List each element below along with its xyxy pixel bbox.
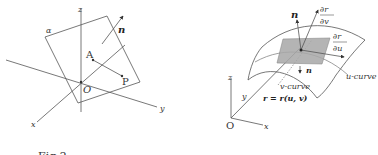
x-axis-label: x	[31, 120, 36, 129]
position-equation: r = r(u, v)	[263, 93, 308, 103]
origin-right-label: O	[226, 120, 234, 131]
partial-u-numerator: ∂r	[333, 32, 342, 41]
z-axis-right-label: z	[227, 73, 233, 82]
normal-top-label: n	[291, 9, 298, 20]
x-axis-right	[231, 118, 263, 125]
normal-n-label: n	[118, 24, 125, 35]
surface-diagram: z y x O n n ∂r ∂v ∂r ∂u u-curve v-curve …	[226, 5, 377, 131]
partial-r-u-fraction: ∂r ∂u	[333, 32, 347, 53]
figure-canvas: z y x α n A P O Fig.2	[0, 0, 378, 155]
figure-caption: Fig.2	[38, 150, 67, 155]
normal-bottom-label: n	[306, 65, 312, 75]
point-a-label: A	[85, 49, 94, 60]
u-curve-label: u-curve	[346, 72, 377, 81]
x-axis-right-label: x	[264, 122, 269, 131]
origin-dot	[80, 81, 82, 83]
surface-point-dot	[300, 49, 303, 52]
vector-ap	[93, 60, 122, 76]
tangent-plane-patch	[277, 38, 330, 64]
partial-v-numerator: ∂r	[320, 5, 329, 14]
plane-diagram: z y x α n A P O	[6, 5, 165, 129]
partial-u-denominator: ∂u	[333, 44, 342, 53]
partial-v-denominator: ∂v	[320, 17, 329, 26]
y-axis-right-label: y	[241, 92, 247, 101]
point-p-label: P	[122, 76, 129, 87]
partial-r-v-fraction: ∂r ∂v	[320, 5, 334, 26]
z-axis-label: z	[77, 5, 83, 14]
v-curve-label: v-curve	[280, 82, 310, 91]
plane-alpha-label: α	[46, 26, 52, 35]
origin-label: O	[83, 84, 91, 95]
y-axis-label: y	[159, 104, 165, 113]
